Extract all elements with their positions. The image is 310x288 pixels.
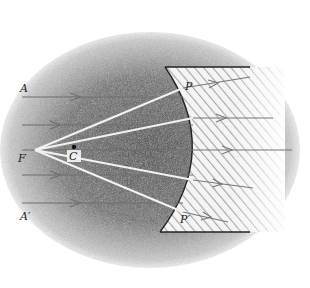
convex-mirror-diagram: A A′ F C P P′ bbox=[0, 0, 310, 288]
label-A: A bbox=[19, 82, 28, 95]
label-A-prime: A′ bbox=[19, 210, 31, 223]
label-F: F bbox=[17, 152, 26, 165]
center-of-curvature-dot bbox=[72, 145, 76, 149]
label-C: C bbox=[69, 150, 78, 163]
label-P: P bbox=[184, 80, 193, 93]
label-P-prime: P′ bbox=[179, 213, 190, 226]
